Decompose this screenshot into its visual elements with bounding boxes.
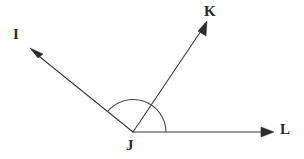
label-point-i: I bbox=[13, 27, 19, 42]
ray-jl-arrowhead bbox=[261, 127, 274, 137]
ray-jk-line bbox=[133, 28, 203, 132]
ray-ji-line bbox=[35, 53, 133, 132]
geometry-canvas bbox=[0, 0, 304, 159]
label-point-k: K bbox=[204, 4, 216, 19]
label-point-j: J bbox=[126, 138, 134, 153]
ray-ji-arrowhead bbox=[30, 48, 43, 58]
angle-diagram-figure: I K L J bbox=[0, 0, 304, 159]
ray-jl-group bbox=[133, 127, 274, 137]
ray-ji-group bbox=[30, 48, 133, 132]
label-point-l: L bbox=[280, 122, 290, 137]
ray-jk-group bbox=[133, 21, 207, 132]
